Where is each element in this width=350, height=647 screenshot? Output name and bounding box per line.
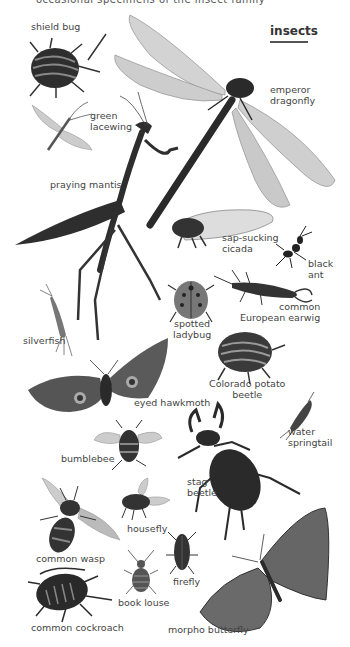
label-spotted-ladybug: spotted ladybug <box>173 318 211 340</box>
housefly-illustration <box>122 478 170 520</box>
label-common-cockroach: common cockroach <box>31 622 124 633</box>
firefly-illustration <box>166 532 198 574</box>
label-line: European earwig <box>240 312 320 323</box>
label-silverfish: silverfish <box>23 335 66 346</box>
label-line: beetle <box>187 487 217 498</box>
common-wasp-illustration <box>40 478 120 556</box>
label-stag-beetle: stag beetle <box>187 476 217 498</box>
colorado-potato-beetle-illustration <box>218 332 285 384</box>
label-line: Colorado potato <box>209 378 285 389</box>
label-line: sap-sucking <box>222 232 279 243</box>
title-underline <box>270 41 308 43</box>
cropped-heading-text: occasional specimens of the insect famil… <box>36 0 265 5</box>
emperor-dragonfly-illustration <box>115 15 335 225</box>
label-shield-bug: shield bug <box>31 21 80 32</box>
earwig-illustration <box>214 270 312 305</box>
label-bumblebee: bumblebee <box>61 453 115 464</box>
shield-bug-illustration <box>30 34 106 98</box>
morpho-butterfly-illustration <box>200 508 329 632</box>
page-title: insects <box>270 24 318 38</box>
ladybug-illustration <box>168 281 214 322</box>
label-emperor-dragonfly: emperor dragonfly <box>270 84 315 106</box>
label-line: water <box>288 426 332 437</box>
green-lacewing-illustration <box>32 102 92 150</box>
label-sap-sucking-cicada: sap-sucking cicada <box>222 232 279 254</box>
label-firefly: firefly <box>173 576 200 587</box>
label-line: stag <box>187 476 217 487</box>
label-line: ladybug <box>173 329 211 340</box>
label-water-springtail: water springtail <box>288 426 332 448</box>
black-ant-illustration <box>276 226 312 268</box>
label-line: cicada <box>222 243 279 254</box>
label-black-ant: black ant <box>308 258 333 280</box>
label-line: green <box>90 110 132 121</box>
label-praying-mantis: praying mantis <box>50 179 122 190</box>
label-morpho-butterfly: morpho butterfly <box>168 624 249 635</box>
label-common-european-earwig: common European earwig <box>240 301 320 323</box>
common-cockroach-illustration <box>28 568 112 622</box>
stag-beetle-illustration <box>178 404 300 540</box>
label-line: emperor <box>270 84 315 95</box>
label-housefly: housefly <box>127 523 167 534</box>
label-eyed-hawkmoth: eyed hawkmoth <box>134 397 210 408</box>
book-louse-illustration <box>124 550 158 594</box>
label-line: common <box>240 301 320 312</box>
label-line: spotted <box>173 318 211 329</box>
label-common-wasp: common wasp <box>36 553 105 564</box>
label-colorado-potato-beetle: Colorado potato beetle <box>209 378 285 400</box>
label-line: beetle <box>209 389 285 400</box>
label-line: lacewing <box>90 121 132 132</box>
label-green-lacewing: green lacewing <box>90 110 132 132</box>
label-line: dragonfly <box>270 95 315 106</box>
label-line: springtail <box>288 437 332 448</box>
label-book-louse: book louse <box>118 597 169 608</box>
label-line: ant <box>308 269 333 280</box>
label-line: black <box>308 258 333 269</box>
